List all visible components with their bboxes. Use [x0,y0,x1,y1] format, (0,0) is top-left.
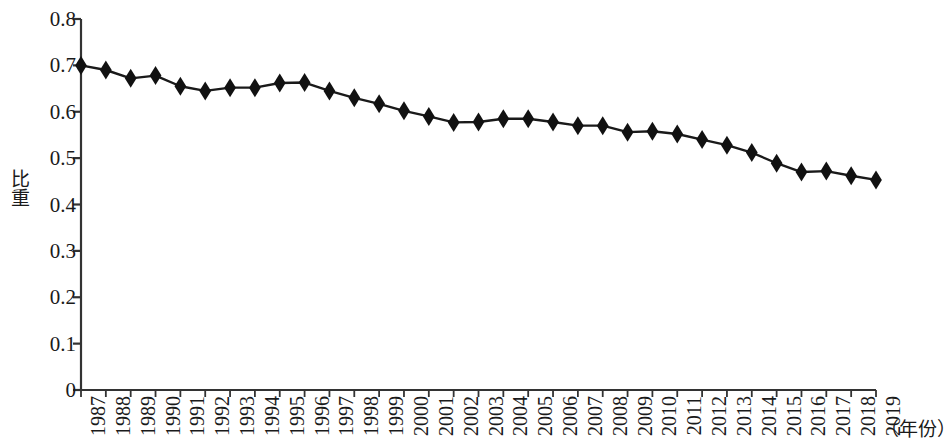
x-tick-label: 2007 [585,396,605,436]
y-tick-label: 0.5 [30,148,76,169]
x-tick-label: 1995 [287,396,307,436]
data-point-marker [199,81,211,100]
data-point-marker [820,162,832,181]
data-point-marker [125,69,137,88]
x-tick-label: 2010 [659,396,679,436]
data-point-marker [348,88,360,107]
data-point-marker [671,125,683,144]
data-point-marker [373,94,385,113]
x-tick-label: 2009 [635,396,655,436]
y-axis-tick-labels: 0.80.70.60.50.40.30.20.10 [0,0,76,448]
x-tick-label: 2001 [436,396,456,436]
x-tick-label: 1998 [361,396,381,436]
x-axis-unit-label: （年份） [880,414,948,441]
x-tick-label: 2018 [858,396,878,436]
data-point-marker [771,154,783,173]
x-tick-label: 2008 [610,396,630,436]
data-point-marker [448,113,460,132]
y-tick-label: 0.4 [30,194,76,215]
data-point-marker [597,116,609,135]
data-point-marker [174,77,186,96]
data-point-marker [622,123,634,142]
data-point-marker [224,78,236,97]
data-point-marker [423,107,435,126]
x-tick-label: 2016 [808,396,828,436]
data-point-marker [647,122,659,141]
x-tick-label: 2006 [560,396,580,436]
x-tick-label: 1997 [336,396,356,436]
x-tick-label: 2015 [784,396,804,436]
data-point-marker [75,56,87,75]
x-tick-label: 1999 [386,396,406,436]
x-tick-label: 2013 [734,396,754,436]
x-tick-label: 2005 [535,396,555,436]
x-axis-tick-labels: 1987198819891990199119921993199419951996… [0,396,931,448]
x-tick-label: 2017 [833,396,853,436]
y-tick-label: 0.2 [30,287,76,308]
data-point-marker [473,112,485,131]
data-point-marker [796,163,808,182]
data-point-marker [547,112,559,131]
x-tick-label: 1990 [163,396,183,436]
x-tick-label: 2003 [486,396,506,436]
y-tick-label: 0.3 [30,240,76,261]
y-tick-label: 0.6 [30,101,76,122]
data-point-marker [497,109,509,128]
data-point-marker [274,73,286,92]
x-tick-label: 2004 [510,396,530,436]
x-tick-label: 1988 [113,396,133,436]
x-tick-label: 1991 [187,396,207,436]
axes [81,19,876,390]
data-point-marker [746,143,758,162]
x-tick-label: 1987 [88,396,108,436]
x-tick-label: 2000 [411,396,431,436]
data-point-marker [150,66,162,85]
data-point-marker [721,136,733,155]
y-tick-label: 0.7 [30,55,76,76]
data-point-marker [100,61,112,80]
data-point-marker [398,101,410,120]
data-point-marker [522,109,534,128]
data-point-marker [696,130,708,149]
x-tick-label: 1989 [138,396,158,436]
y-tick-label: 0.8 [30,9,76,30]
x-tick-label: 1996 [312,396,332,436]
data-point-marker [249,78,261,97]
data-point-marker [845,166,857,185]
tick-marks [73,19,876,397]
data-point-marker [870,170,882,189]
data-point-marker [299,73,311,92]
x-tick-label: 1992 [212,396,232,436]
x-tick-label: 2014 [759,396,779,436]
data-markers [75,56,882,190]
data-point-marker [324,81,336,100]
x-tick-label: 2002 [461,396,481,436]
x-tick-label: 1994 [262,396,282,436]
x-tick-label: 2011 [684,396,704,435]
x-tick-label: 1993 [237,396,257,436]
x-tick-label: 2012 [709,396,729,436]
y-tick-label: 0.1 [30,333,76,354]
data-point-marker [572,116,584,135]
